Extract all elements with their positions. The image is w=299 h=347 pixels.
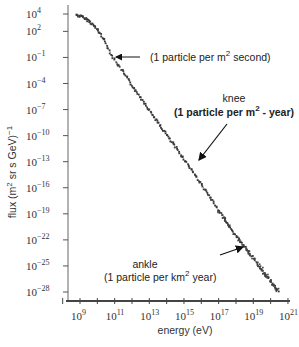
data-point	[206, 190, 208, 192]
data-point	[103, 38, 105, 40]
data-point	[150, 112, 152, 114]
data-point	[229, 226, 231, 228]
data-point	[245, 246, 247, 248]
y-tick-label: 10−28	[26, 284, 50, 298]
data-point	[143, 101, 145, 103]
data-point	[252, 255, 254, 257]
data-point	[148, 108, 150, 110]
y-tick-label: 10−16	[26, 180, 50, 194]
data-point	[177, 149, 179, 151]
data-point	[109, 49, 111, 51]
annotation-knee-title: knee	[223, 92, 246, 104]
y-tick-label: 10−4	[26, 76, 46, 90]
data-point	[178, 151, 180, 153]
data-point	[241, 242, 243, 244]
data-point	[275, 288, 277, 290]
data-point	[254, 259, 256, 261]
data-point	[178, 152, 180, 154]
data-point	[212, 199, 214, 201]
data-point	[203, 188, 205, 190]
data-point	[83, 17, 85, 19]
data-point	[133, 88, 135, 90]
y-ticks: 10410210−110−410−710−1010−1310−1610−1910…	[26, 6, 68, 298]
data-point	[267, 274, 269, 276]
data-point	[222, 214, 224, 216]
y-tick-label: 102	[26, 23, 41, 37]
x-tick-label: 1019	[244, 308, 263, 322]
data-point	[219, 212, 221, 214]
data-point	[199, 181, 201, 183]
data-point	[131, 85, 133, 87]
data-point	[210, 199, 212, 201]
data-point	[107, 47, 109, 49]
data-point	[266, 277, 268, 279]
data-point	[82, 15, 84, 17]
data-point	[247, 250, 249, 252]
data-point	[259, 263, 261, 265]
data-point	[122, 70, 124, 72]
data-point	[185, 161, 187, 163]
data-point	[227, 224, 229, 226]
data-point	[251, 258, 253, 260]
data-point	[249, 254, 251, 256]
data-point	[273, 284, 275, 286]
data-point	[213, 201, 215, 203]
data-point	[208, 194, 210, 196]
data-point	[232, 233, 234, 235]
data-point	[94, 25, 96, 27]
data-point	[205, 189, 207, 191]
data-point	[111, 55, 113, 57]
data-point	[165, 131, 167, 133]
data-point	[216, 206, 218, 208]
data-point	[260, 265, 262, 267]
y-tick-label: 10−13	[26, 154, 50, 168]
data-point	[277, 288, 279, 290]
x-tick-label: 1021	[279, 308, 298, 322]
data-point	[227, 222, 229, 224]
data-point	[217, 212, 219, 214]
data-point	[100, 36, 102, 38]
x-tick-label: 1013	[140, 308, 159, 322]
data-point	[136, 91, 138, 93]
data-point	[129, 84, 131, 86]
annotation-ankle-rate: (1 particle per km2 year)	[104, 269, 216, 283]
data-point	[106, 45, 108, 47]
y-tick-label: 10−10	[26, 128, 50, 142]
data-point	[174, 147, 176, 149]
data-point	[195, 176, 197, 178]
data-point	[257, 262, 259, 264]
data-point	[237, 240, 239, 242]
annotation-ankle-title: ankle	[132, 258, 157, 270]
data-point	[238, 237, 240, 239]
y-tick-label: 10−25	[26, 258, 50, 272]
data-point	[167, 136, 169, 138]
data-point	[126, 77, 128, 79]
y-tick-label: 10−19	[26, 206, 50, 220]
data-point	[210, 197, 212, 199]
data-point	[140, 99, 142, 101]
data-point	[278, 291, 280, 293]
data-point	[161, 128, 163, 130]
arrow-knee	[199, 124, 227, 160]
data-point	[183, 159, 185, 161]
cosmic-ray-spectrum-chart: 10410210−110−410−710−1010−1310−1610−1910…	[0, 0, 299, 347]
data-point	[232, 230, 234, 232]
data-point	[241, 244, 243, 246]
data-point	[206, 192, 208, 194]
data-point	[158, 122, 160, 124]
data-point	[140, 96, 142, 98]
data-point	[213, 202, 215, 204]
data-point	[169, 138, 171, 140]
data-point	[129, 82, 131, 84]
data-point	[201, 186, 203, 188]
data-point	[262, 267, 264, 269]
data-point	[182, 156, 184, 158]
annotation-knee-rate: (1 particle per m2 - year)	[174, 104, 294, 118]
data-point	[111, 57, 113, 59]
data-point	[261, 270, 263, 272]
data-point	[239, 241, 241, 243]
y-tick-label: 10−1	[26, 49, 46, 63]
data-point	[243, 246, 245, 248]
x-tick-label: 1011	[106, 308, 125, 322]
y-tick-label: 10−7	[26, 102, 46, 116]
